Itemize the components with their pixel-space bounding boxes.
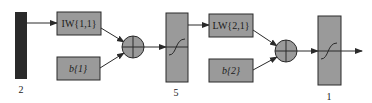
bias2-label: b{2} (222, 65, 240, 76)
input-size-label: 2 (19, 84, 24, 95)
layer-weight-label: LW{2,1} (213, 20, 250, 31)
layer1-size-label: 5 (174, 87, 179, 98)
neural-network-diagram: 2 IW{1,1} b{1} 5 LW{2,1} b{2} (0, 0, 372, 103)
b1-to-sum1-arrow (100, 53, 124, 68)
b2-to-sum2-arrow (253, 57, 277, 70)
bias1-label: b{1} (69, 63, 87, 74)
lw-to-sum2-arrow (253, 30, 277, 46)
sum1-icon (122, 36, 144, 58)
input-weight-label: IW{1,1} (62, 18, 97, 29)
layer2-size-label: 1 (327, 91, 332, 102)
input-vector-bar (15, 12, 27, 79)
sum2-icon (275, 40, 297, 62)
iw-to-sum1-arrow (101, 28, 124, 42)
